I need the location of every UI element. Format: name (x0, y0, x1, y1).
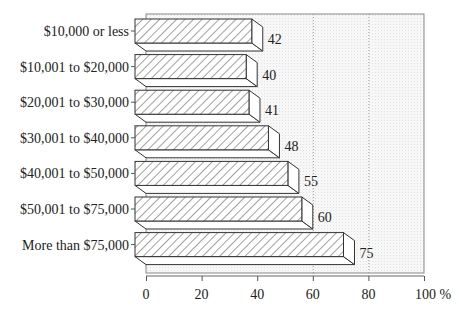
data-label: 55 (304, 174, 318, 189)
category-label: $50,001 to $75,000 (20, 202, 129, 217)
data-label: 60 (318, 210, 332, 225)
category-label: $10,000 or less (44, 24, 129, 39)
category-label: $10,001 to $20,000 (20, 60, 129, 75)
bar: 48 (135, 126, 298, 158)
data-label: 41 (265, 103, 279, 118)
data-label: 40 (262, 68, 276, 83)
x-axis: 020406080100 % (143, 276, 452, 302)
bar-chart: 42404148556075 020406080100 % $10,000 or… (0, 0, 459, 315)
x-tick-label: 80 (361, 287, 375, 302)
category-label: $20,001 to $30,000 (20, 95, 129, 110)
category-label: $40,001 to $50,000 (20, 166, 129, 181)
x-tick-label: 40 (250, 287, 264, 302)
x-tick-label: 0 (143, 287, 150, 302)
data-label: 48 (284, 139, 298, 154)
x-tick-label: 100 % (415, 287, 452, 302)
data-label: 75 (360, 246, 374, 261)
x-tick-label: 20 (195, 287, 209, 302)
category-labels: $10,000 or less$10,001 to $20,000$20,001… (20, 24, 135, 253)
category-label: More than $75,000 (22, 238, 129, 253)
data-label: 42 (268, 32, 282, 47)
bar: 75 (135, 233, 374, 265)
x-tick-label: 60 (306, 287, 320, 302)
bar: 60 (135, 197, 332, 229)
category-label: $30,001 to $40,000 (20, 131, 129, 146)
bar: 55 (135, 161, 318, 193)
